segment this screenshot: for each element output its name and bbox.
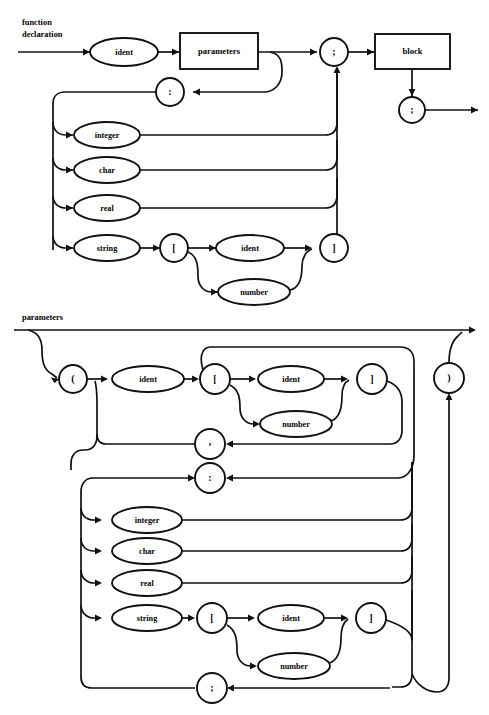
node-param-ident-index-label: ident xyxy=(282,375,300,384)
arrowhead-string xyxy=(66,245,73,252)
diagram-title-line1: function xyxy=(22,18,52,27)
arrowhead-string-2 xyxy=(95,615,102,622)
rail-rparen-to-main xyxy=(449,332,462,363)
node-param-string-lbracket-label: [ xyxy=(210,612,213,623)
arrowhead-numberidx xyxy=(253,421,260,428)
arrowhead-number xyxy=(211,289,218,296)
rail-lparen-to-comma-spine xyxy=(83,436,97,450)
syntax-diagram-canvas: function declaration ident parameters ; xyxy=(0,0,489,715)
arrowhead-rparen xyxy=(446,393,453,400)
node-param-semicolon-label: ; xyxy=(210,682,213,693)
arrowhead-real-2 xyxy=(95,580,102,587)
node-semicolon-end-label: ; xyxy=(410,104,413,115)
rail-rbracket-return-2 xyxy=(386,590,412,640)
parameters-title: parameters xyxy=(22,313,64,322)
arrowhead-colon-in xyxy=(193,89,200,96)
arrowhead-colon-left xyxy=(188,475,195,482)
arrowhead-comma-in xyxy=(226,441,233,448)
node-param-rbracket-label: ] xyxy=(370,373,373,384)
node-ident-label: ident xyxy=(115,48,133,57)
node-string-label: string xyxy=(97,244,118,253)
node-param-string-rbracket-label: ] xyxy=(369,612,372,623)
node-number-label: number xyxy=(240,288,268,297)
rail-lparen-down xyxy=(95,381,97,436)
node-param-char-label: char xyxy=(139,547,155,556)
arrowhead-param-semicolon xyxy=(227,685,234,692)
arrowhead-block xyxy=(367,49,374,56)
node-colon-label: : xyxy=(168,86,171,97)
diagram-title-line2: declaration xyxy=(22,30,63,39)
rail-right-spine xyxy=(392,462,412,687)
rail-spine-to-char xyxy=(53,158,73,170)
rail-bottom-left-to-semicolon xyxy=(81,625,195,688)
rail-char-return-2 xyxy=(182,524,412,551)
rail-numberidx-to-rbracket xyxy=(331,380,349,421)
rail-spine-to-real xyxy=(53,196,73,208)
rail-spine-to-string xyxy=(53,236,73,248)
rail-real-return-2 xyxy=(182,556,412,583)
rail-numberidx-to-rbracket-2 xyxy=(330,619,348,663)
rail-spine-to-integer xyxy=(53,122,73,135)
arrowhead-entry xyxy=(83,49,90,56)
node-semicolon-mid-label: ; xyxy=(332,46,335,57)
node-param-colon-label: : xyxy=(208,472,211,483)
rail-comma-return xyxy=(97,434,195,444)
rail-comma-spine-down xyxy=(71,450,83,470)
arrowhead-lbracket xyxy=(153,245,160,252)
node-char-label: char xyxy=(99,166,115,175)
rail-main-to-lparen xyxy=(28,330,57,378)
arrowhead-return-semicolon xyxy=(334,66,341,73)
arrowhead-char-2 xyxy=(95,548,102,555)
rail-close-up-to-rparen xyxy=(412,398,449,692)
arrowhead-colon-in-2 xyxy=(226,475,233,482)
rail-lbracket-skip xyxy=(201,347,414,455)
diagram-parameters: parameters ( ident [ xyxy=(14,313,476,703)
rail-lbracket-to-number xyxy=(188,252,218,292)
node-rbracket-label: ] xyxy=(332,242,335,253)
arrowhead-lbracket-3 xyxy=(188,615,195,622)
arrowhead-char xyxy=(66,167,73,174)
node-param-string-number-label: number xyxy=(280,662,308,671)
node-param-number-index-label: number xyxy=(282,420,310,429)
node-rparen-label: ) xyxy=(447,372,450,384)
arrowhead-lbracket-2 xyxy=(192,376,199,383)
node-ident-index-label: ident xyxy=(241,244,259,253)
node-param-string-ident-label: ident xyxy=(282,614,300,623)
railroad-diagram-page: function declaration ident parameters ; xyxy=(0,0,489,715)
arrowhead-lparen xyxy=(51,378,59,384)
arrowhead-parameters-exit xyxy=(469,327,476,334)
node-parameters-label: parameters xyxy=(198,46,241,56)
arrowhead-param-ident xyxy=(101,376,108,383)
rail-right-to-colon xyxy=(230,455,414,478)
arrowhead-parameters xyxy=(172,49,179,56)
node-lbracket-label: [ xyxy=(172,242,175,253)
rail-real-return xyxy=(140,178,337,208)
arrowhead-real xyxy=(66,205,73,212)
arrowhead-exit xyxy=(471,107,478,114)
rail-number-to-rbracket xyxy=(290,249,312,290)
node-integer-label: integer xyxy=(95,131,120,140)
rail-lbracket-to-numberidx-2 xyxy=(227,625,255,666)
node-block-label: block xyxy=(402,46,422,56)
node-param-integer-label: integer xyxy=(135,516,160,525)
diagram-function-declaration: function declaration ident parameters ; xyxy=(18,18,478,305)
rail-char-return xyxy=(140,140,337,170)
arrowhead-integer-2 xyxy=(95,517,102,524)
node-param-ident-label: ident xyxy=(139,375,157,384)
arrowhead-semicolon-mid xyxy=(310,49,317,56)
arrowhead-ident-index xyxy=(209,245,216,252)
node-param-lbracket-label: [ xyxy=(213,373,216,384)
node-real-label: real xyxy=(100,204,114,213)
node-param-real-label: real xyxy=(140,579,154,588)
arrowhead-end-semicolon xyxy=(409,89,416,96)
arrowhead-identidx-2 xyxy=(248,615,255,622)
rail-lbracket-to-numberidx xyxy=(230,385,258,424)
arrowhead-identidx xyxy=(249,376,256,383)
arrowhead-integer xyxy=(66,132,73,139)
arrowhead-numberidx-2 xyxy=(250,663,257,670)
node-param-string-label: string xyxy=(137,614,158,623)
